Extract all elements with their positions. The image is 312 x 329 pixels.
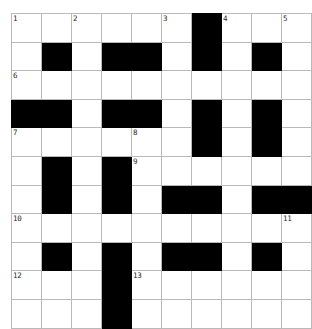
crossword-cell[interactable] <box>252 156 282 185</box>
crossword-cell[interactable]: 2 <box>72 14 102 43</box>
crossword-block-cell <box>12 99 42 128</box>
crossword-cell[interactable] <box>282 128 312 157</box>
crossword-cell[interactable] <box>42 71 72 100</box>
crossword-cell[interactable] <box>252 271 282 300</box>
clue-number: 7 <box>13 128 17 137</box>
crossword-cell[interactable]: 11 <box>282 214 312 243</box>
crossword-cell[interactable] <box>162 128 192 157</box>
crossword-cell[interactable] <box>222 71 252 100</box>
crossword-cell[interactable] <box>72 71 102 100</box>
crossword-cell[interactable] <box>282 42 312 71</box>
crossword-cell[interactable] <box>222 42 252 71</box>
crossword-cell[interactable] <box>132 242 162 271</box>
crossword-cell[interactable] <box>102 128 132 157</box>
crossword-cell[interactable] <box>72 242 102 271</box>
crossword-cell[interactable]: 5 <box>282 14 312 43</box>
crossword-cell[interactable] <box>72 156 102 185</box>
crossword-cell[interactable] <box>132 71 162 100</box>
crossword-cell[interactable]: 10 <box>12 214 42 243</box>
crossword-block-cell <box>162 185 192 214</box>
crossword-cell[interactable] <box>282 99 312 128</box>
crossword-cell[interactable] <box>72 42 102 71</box>
crossword-cell[interactable] <box>162 271 192 300</box>
crossword-cell[interactable] <box>132 14 162 43</box>
crossword-cell[interactable]: 13 <box>132 271 162 300</box>
crossword-cell[interactable]: 9 <box>132 156 162 185</box>
crossword-cell[interactable] <box>72 128 102 157</box>
crossword-cell[interactable] <box>102 214 132 243</box>
crossword-cell[interactable] <box>252 71 282 100</box>
crossword-cell[interactable] <box>222 156 252 185</box>
clue-number: 6 <box>13 71 17 80</box>
crossword-cell[interactable] <box>162 99 192 128</box>
crossword-cell[interactable] <box>162 299 192 328</box>
crossword-cell[interactable] <box>282 299 312 328</box>
crossword-block-cell <box>102 271 132 300</box>
crossword-row <box>12 299 312 328</box>
crossword-cell[interactable] <box>72 99 102 128</box>
crossword-cell[interactable] <box>222 299 252 328</box>
crossword-cell[interactable] <box>222 242 252 271</box>
crossword-cell[interactable]: 6 <box>12 71 42 100</box>
crossword-row: 12345 <box>12 14 312 43</box>
crossword-block-cell <box>192 14 222 43</box>
crossword-cell[interactable]: 4 <box>222 14 252 43</box>
crossword-cell[interactable] <box>282 156 312 185</box>
crossword-block-cell <box>102 99 132 128</box>
crossword-block-cell <box>102 185 132 214</box>
clue-number: 2 <box>73 14 77 23</box>
crossword-cell[interactable] <box>42 214 72 243</box>
crossword-cell[interactable] <box>12 185 42 214</box>
crossword-cell[interactable] <box>252 214 282 243</box>
crossword-grid[interactable]: 12345678910111213 <box>11 13 312 329</box>
crossword-cell[interactable] <box>282 71 312 100</box>
crossword-cell[interactable] <box>42 14 72 43</box>
crossword-cell[interactable]: 12 <box>12 271 42 300</box>
clue-number: 5 <box>283 14 287 23</box>
crossword-cell[interactable] <box>162 71 192 100</box>
crossword-cell[interactable] <box>12 156 42 185</box>
crossword-cell[interactable] <box>72 299 102 328</box>
crossword-cell[interactable] <box>12 299 42 328</box>
crossword-cell[interactable] <box>252 14 282 43</box>
crossword-cell[interactable] <box>132 185 162 214</box>
crossword-cell[interactable]: 1 <box>12 14 42 43</box>
crossword-cell[interactable] <box>192 214 222 243</box>
crossword-block-cell <box>282 185 312 214</box>
crossword-cell[interactable] <box>282 271 312 300</box>
crossword-cell[interactable] <box>222 128 252 157</box>
crossword-cell[interactable] <box>72 214 102 243</box>
crossword-cell[interactable] <box>12 42 42 71</box>
crossword-cell[interactable] <box>102 71 132 100</box>
crossword-cell[interactable] <box>162 42 192 71</box>
crossword-cell[interactable]: 3 <box>162 14 192 43</box>
crossword-cell[interactable] <box>282 242 312 271</box>
clue-number: 4 <box>223 14 227 23</box>
crossword-cell[interactable] <box>102 14 132 43</box>
crossword-cell[interactable] <box>222 185 252 214</box>
crossword-cell[interactable] <box>162 156 192 185</box>
crossword-cell[interactable] <box>222 99 252 128</box>
crossword-puzzle: 12345678910111213 <box>11 13 312 329</box>
crossword-cell[interactable] <box>192 156 222 185</box>
crossword-cell[interactable] <box>132 214 162 243</box>
crossword-block-cell <box>252 242 282 271</box>
crossword-cell[interactable] <box>192 299 222 328</box>
crossword-cell[interactable] <box>72 271 102 300</box>
crossword-cell[interactable] <box>222 214 252 243</box>
crossword-cell[interactable] <box>192 271 222 300</box>
crossword-cell[interactable]: 7 <box>12 128 42 157</box>
crossword-cell[interactable] <box>42 299 72 328</box>
crossword-cell[interactable] <box>42 128 72 157</box>
crossword-cell[interactable]: 8 <box>132 128 162 157</box>
crossword-cell[interactable] <box>192 71 222 100</box>
crossword-cell[interactable] <box>12 242 42 271</box>
crossword-cell[interactable] <box>72 185 102 214</box>
crossword-cell[interactable] <box>42 271 72 300</box>
crossword-cell[interactable] <box>252 299 282 328</box>
crossword-cell[interactable] <box>222 271 252 300</box>
crossword-cell[interactable] <box>132 299 162 328</box>
crossword-cell[interactable] <box>162 214 192 243</box>
clue-number: 13 <box>133 271 141 280</box>
crossword-block-cell <box>252 185 282 214</box>
